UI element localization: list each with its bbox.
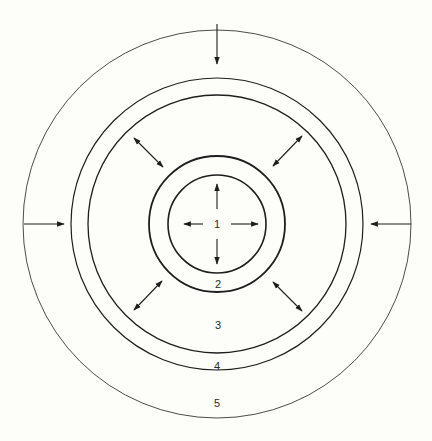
double-arrow-icon xyxy=(273,136,302,166)
zone-label-4: 4 xyxy=(214,360,220,372)
double-arrow-icon xyxy=(134,138,163,167)
zone-label-1: 1 xyxy=(214,218,220,230)
double-arrow-icon xyxy=(273,282,302,311)
zone-label-2: 2 xyxy=(215,278,221,290)
zone-label-5: 5 xyxy=(214,397,220,409)
double-arrow-icon xyxy=(134,281,162,310)
zone-label-3: 3 xyxy=(215,319,221,331)
concentric-ring-diagram: 1 2 3 4 5 xyxy=(0,0,432,441)
